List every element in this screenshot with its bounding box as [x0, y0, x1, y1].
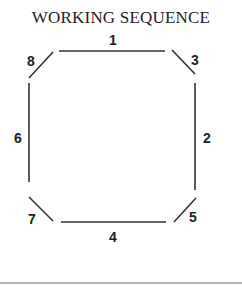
label-6: 6 — [14, 130, 22, 146]
label-4: 4 — [109, 229, 117, 245]
label-7: 7 — [28, 211, 36, 227]
label-8: 8 — [27, 53, 35, 69]
label-1: 1 — [109, 32, 117, 48]
octagon-sequence-diagram: 1 3 8 6 2 7 5 4 — [0, 0, 242, 290]
label-2: 2 — [203, 130, 211, 146]
label-3: 3 — [191, 52, 199, 68]
label-5: 5 — [189, 209, 197, 225]
